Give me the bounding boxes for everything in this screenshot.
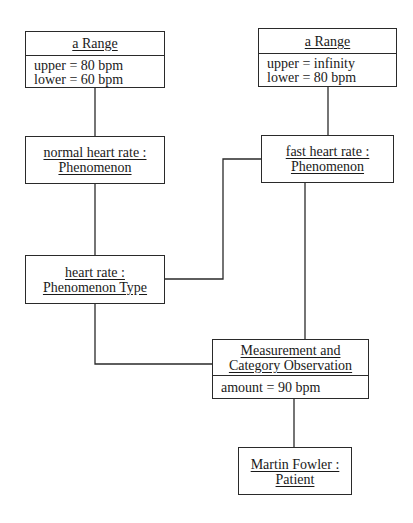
object-class-line: Phenomenon Type (26, 280, 164, 295)
attribute-amount: amount = 90 bpm (221, 381, 368, 395)
object-name-line: normal heart rate : (26, 145, 164, 160)
attribute-upper: upper = 80 bpm (34, 59, 164, 73)
object-measurement[interactable]: Measurement and Category Observation amo… (212, 339, 369, 399)
object-range-fast[interactable]: a Range upper = infinity lower = 80 bpm (258, 28, 397, 87)
object-normal-heart-rate[interactable]: normal heart rate : Phenomenon (25, 136, 165, 184)
object-name: normal heart rate : Phenomenon (26, 137, 164, 175)
object-class-line: Phenomenon (262, 159, 393, 174)
attribute-lower: lower = 80 bpm (267, 71, 396, 85)
object-name-line: Measurement and (213, 343, 368, 358)
object-fast-heart-rate[interactable]: fast heart rate : Phenomenon (261, 135, 394, 183)
attribute-compartment: upper = infinity lower = 80 bpm (259, 53, 396, 88)
link-heartrate-measurement (95, 304, 212, 364)
object-class-line: Category Observation (213, 358, 368, 373)
object-heart-rate[interactable]: heart rate : Phenomenon Type (25, 255, 165, 304)
object-name-line: a Range (26, 36, 164, 51)
attribute-upper: upper = infinity (267, 57, 396, 71)
object-name-line: heart rate : (26, 265, 164, 280)
object-class-line: Phenomenon (26, 160, 164, 175)
object-name-line: fast heart rate : (262, 144, 393, 159)
attribute-compartment: upper = 80 bpm lower = 60 bpm (26, 55, 164, 89)
attribute-compartment: amount = 90 bpm (213, 375, 368, 399)
object-name: a Range (26, 32, 164, 55)
link-fast-heartrate (165, 159, 261, 279)
object-name: heart rate : Phenomenon Type (26, 256, 164, 295)
object-name: Measurement and Category Observation (213, 340, 368, 375)
object-range-normal[interactable]: a Range upper = 80 bpm lower = 60 bpm (25, 31, 165, 88)
object-name-line: Martin Fowler : (239, 457, 351, 472)
attribute-lower: lower = 60 bpm (34, 73, 164, 87)
object-name: Martin Fowler : Patient (239, 448, 351, 487)
object-name-line: a Range (259, 34, 396, 49)
object-class-line: Patient (239, 472, 351, 487)
object-name: fast heart rate : Phenomenon (262, 136, 393, 174)
object-name: a Range (259, 29, 396, 53)
object-patient[interactable]: Martin Fowler : Patient (238, 447, 352, 495)
